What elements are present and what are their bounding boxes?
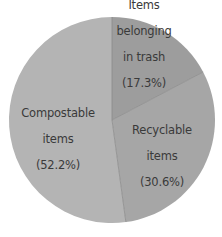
slice-label-trash: Items belonging in trash (17.3%) [116, 0, 171, 90]
slice-label-compostable: Compostable items (52.2%) [21, 94, 95, 172]
label-line: Compostable [21, 106, 95, 120]
label-line: Recyclable [132, 123, 192, 137]
pie-chart: Items belonging in trash (17.3%) Recycla… [0, 0, 222, 237]
label-percent: (52.2%) [36, 158, 80, 172]
label-line: belonging [116, 24, 171, 38]
label-percent: (17.3%) [122, 76, 166, 90]
label-line: Items [128, 0, 159, 12]
label-line: items [43, 132, 74, 146]
label-percent: (30.6%) [140, 175, 184, 189]
label-line: items [147, 149, 178, 163]
slice-label-recyclable: Recyclable items (30.6%) [132, 111, 192, 189]
label-line: in trash [123, 50, 165, 64]
